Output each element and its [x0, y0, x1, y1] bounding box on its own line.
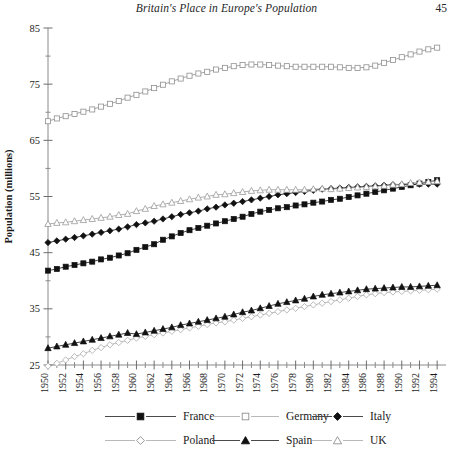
legend-row-bottom: PolandSpainUK [0, 434, 453, 456]
data-point [292, 186, 298, 192]
data-point [408, 52, 413, 57]
data-point [292, 305, 298, 311]
data-point [266, 186, 272, 192]
data-point [310, 302, 316, 308]
y-tick-label: 85 [30, 23, 41, 34]
legend-item-italy[interactable]: Italy [312, 410, 391, 422]
data-point [125, 251, 130, 256]
legend-line-left [105, 440, 135, 441]
data-point [178, 211, 184, 217]
data-point [320, 64, 325, 69]
y-axis-tick-labels: 25354555657585 [30, 23, 41, 371]
legend-marker-filled-diamond-icon [332, 411, 343, 422]
legend-line-left [312, 416, 332, 417]
data-point [249, 62, 254, 67]
data-point [257, 312, 263, 318]
data-point [81, 109, 86, 114]
data-point [63, 236, 69, 242]
data-point [311, 64, 316, 69]
x-tick-label: 1988 [375, 373, 386, 393]
data-point [390, 57, 395, 62]
data-point [89, 347, 95, 353]
data-point [152, 242, 157, 247]
data-point [45, 268, 50, 273]
data-point [354, 293, 360, 299]
data-point [107, 342, 113, 348]
x-tick-label: 1978 [287, 373, 298, 393]
legend-item-uk[interactable]: UK [312, 434, 387, 446]
data-point [267, 207, 272, 212]
data-point [205, 69, 210, 74]
legend-item-poland[interactable]: Poland [105, 434, 215, 446]
y-tick-label: 45 [30, 247, 41, 258]
data-point [63, 114, 68, 119]
data-point [373, 63, 378, 68]
data-point [63, 264, 68, 269]
legend-line-right [251, 440, 279, 441]
x-tick-label: 1976 [269, 373, 280, 393]
data-point [116, 98, 121, 103]
data-point [284, 307, 290, 313]
data-point [239, 315, 245, 321]
x-tick-label: 1972 [234, 373, 245, 393]
data-point [328, 64, 333, 69]
data-point [124, 330, 130, 336]
legend-line-left [212, 440, 240, 441]
data-point [346, 195, 351, 200]
data-point [81, 261, 86, 266]
legend-label: UK [363, 434, 387, 446]
data-point [54, 266, 59, 271]
x-tick-label: 1956 [92, 373, 103, 393]
data-point [99, 104, 104, 109]
data-point [302, 202, 307, 207]
data-point [116, 339, 122, 345]
data-point [346, 295, 352, 301]
data-point [124, 224, 130, 230]
data-point [275, 206, 280, 211]
data-point [337, 297, 343, 303]
x-tick-label: 1982 [322, 373, 333, 393]
legend-item-spain[interactable]: Spain [212, 434, 312, 446]
data-point [90, 259, 95, 264]
y-tick-label: 75 [30, 79, 41, 90]
data-point [107, 255, 112, 260]
data-point [346, 65, 351, 70]
data-point [266, 193, 272, 199]
data-point [187, 73, 192, 78]
data-point [231, 64, 236, 69]
data-point [169, 214, 175, 220]
data-point [45, 363, 51, 369]
data-point [222, 65, 227, 70]
data-point [143, 245, 148, 250]
data-point [364, 191, 369, 196]
x-tick-label: 1960 [127, 373, 138, 393]
legend-line-right [146, 416, 176, 417]
page: Britain's Place in Europe's Population 4… [0, 0, 453, 458]
data-point [222, 202, 228, 208]
data-point [222, 219, 227, 224]
data-point [355, 193, 360, 198]
y-axis-title: Population (millions) [3, 149, 15, 244]
x-axis-tick-labels: 1950195219541956195819601962196419661968… [39, 373, 439, 393]
data-point [293, 64, 298, 69]
chart-series-group [45, 45, 441, 369]
y-tick-label: 55 [30, 191, 41, 202]
data-point [328, 197, 333, 202]
data-point [143, 89, 148, 94]
data-point [90, 107, 95, 112]
data-point [231, 200, 237, 206]
data-point [107, 101, 112, 106]
x-tick-label: 1980 [304, 373, 315, 393]
data-point [124, 337, 130, 343]
data-point [45, 119, 50, 124]
data-point [98, 229, 104, 235]
data-point [160, 216, 166, 222]
legend-item-france[interactable]: France [105, 410, 214, 422]
legend-line-left [212, 416, 240, 417]
data-point [435, 45, 440, 50]
data-point [240, 63, 245, 68]
data-point [249, 211, 254, 216]
data-point [337, 65, 342, 70]
data-point [54, 238, 60, 244]
x-tick-label: 1968 [198, 373, 209, 393]
